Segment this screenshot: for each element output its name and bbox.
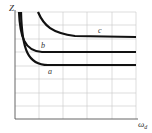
curve-c-label: c — [98, 26, 102, 35]
curve-a — [21, 12, 136, 65]
curve-a-label: a — [48, 67, 52, 76]
x-axis-label: ωd — [138, 119, 148, 130]
curve-b — [19, 12, 136, 52]
chart: Z ωd c b a — [0, 0, 152, 133]
curve-b-label: b — [41, 41, 45, 50]
curves — [19, 12, 136, 65]
y-axis-label: Z — [9, 3, 15, 13]
